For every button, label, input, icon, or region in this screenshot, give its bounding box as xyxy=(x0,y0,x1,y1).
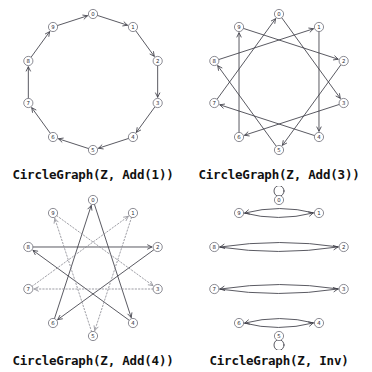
panel-add3: 0123456789 CircleGraph(Z, Add(3)) xyxy=(186,0,372,186)
svg-text:0: 0 xyxy=(91,11,95,17)
svg-text:9: 9 xyxy=(51,210,55,216)
svg-text:9: 9 xyxy=(237,210,241,216)
svg-text:8: 8 xyxy=(213,244,217,250)
svg-text:1: 1 xyxy=(131,210,134,216)
svg-text:7: 7 xyxy=(213,100,216,106)
svg-text:1: 1 xyxy=(317,210,320,216)
svg-text:5: 5 xyxy=(277,147,280,153)
svg-text:7: 7 xyxy=(27,100,30,106)
graph-add1: 0123456789 xyxy=(0,0,186,164)
caption-inv: CircleGraph(Z, Inv) xyxy=(186,353,372,368)
svg-text:3: 3 xyxy=(342,286,345,292)
caption-add1: CircleGraph(Z, Add(1)) xyxy=(0,167,186,182)
svg-text:6: 6 xyxy=(51,134,55,140)
svg-text:8: 8 xyxy=(27,244,31,250)
svg-text:7: 7 xyxy=(213,286,216,292)
svg-text:8: 8 xyxy=(27,58,31,64)
svg-text:2: 2 xyxy=(156,58,159,64)
svg-text:6: 6 xyxy=(237,320,241,326)
svg-text:4: 4 xyxy=(317,320,321,326)
graph-inv-canvas: 0123456789 xyxy=(186,186,372,350)
figure-sheet: 0123456789 CircleGraph(Z, Add(1)) 012345… xyxy=(0,0,372,372)
graph-add4: 0123456789 xyxy=(0,186,186,350)
svg-text:0: 0 xyxy=(91,197,95,203)
svg-text:2: 2 xyxy=(342,244,345,250)
svg-text:9: 9 xyxy=(237,24,241,30)
caption-add3: CircleGraph(Z, Add(3)) xyxy=(186,167,372,182)
graph-add3-canvas: 0123456789 xyxy=(186,0,372,164)
svg-text:7: 7 xyxy=(27,286,30,292)
graph-inv: 0123456789 xyxy=(186,186,372,350)
svg-text:2: 2 xyxy=(342,58,345,64)
svg-text:3: 3 xyxy=(156,286,159,292)
caption-add4: CircleGraph(Z, Add(4)) xyxy=(0,353,186,368)
graph-add1-canvas: 0123456789 xyxy=(0,0,186,164)
svg-text:4: 4 xyxy=(131,320,135,326)
svg-text:5: 5 xyxy=(91,333,94,339)
svg-text:2: 2 xyxy=(156,244,159,250)
svg-text:3: 3 xyxy=(342,100,345,106)
svg-text:6: 6 xyxy=(51,320,55,326)
svg-text:0: 0 xyxy=(277,11,281,17)
svg-text:1: 1 xyxy=(131,24,134,30)
svg-text:4: 4 xyxy=(131,134,135,140)
graph-add4-canvas: 0123456789 xyxy=(0,186,186,350)
svg-text:8: 8 xyxy=(213,58,217,64)
graph-add3: 0123456789 xyxy=(186,0,372,164)
svg-text:5: 5 xyxy=(277,333,280,339)
svg-text:6: 6 xyxy=(237,134,241,140)
svg-text:5: 5 xyxy=(91,147,94,153)
panel-add4: 0123456789 CircleGraph(Z, Add(4)) xyxy=(0,186,186,372)
panel-add1: 0123456789 CircleGraph(Z, Add(1)) xyxy=(0,0,186,186)
svg-text:0: 0 xyxy=(277,197,281,203)
svg-text:9: 9 xyxy=(51,24,55,30)
svg-text:1: 1 xyxy=(317,24,320,30)
panel-inv: 0123456789 CircleGraph(Z, Inv) xyxy=(186,186,372,372)
svg-text:4: 4 xyxy=(317,134,321,140)
svg-text:3: 3 xyxy=(156,100,159,106)
